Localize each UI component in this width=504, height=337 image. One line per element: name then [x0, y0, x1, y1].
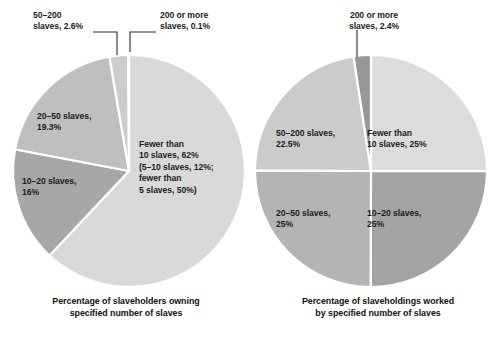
- leader-line-50-200: [93, 32, 117, 55]
- pie-slice: [255, 56, 371, 171]
- label-fewer-than-10-slaves: Fewer than 10 slaves, 62% (5–10 slaves, …: [139, 139, 239, 196]
- label-10-20-slaves: 10–20 slaves, 16%: [22, 176, 110, 199]
- pie-slice: [371, 55, 487, 171]
- pie-slice: [128, 55, 129, 171]
- leader-line-200-more: [130, 32, 156, 52]
- label-50-200-slaves: 50–200 slaves, 22.5%: [276, 128, 368, 151]
- label-50-200-slaves: 50–200 slaves, 2.6%: [33, 10, 107, 33]
- label-20-50-slaves: 20–50 slaves, 25%: [276, 208, 368, 231]
- right-pie-chart-panel: 200 or more slaves, 2.4% 50–200 slaves, …: [252, 0, 504, 337]
- label-200-or-more-slaves: 200 or more slaves, 2.4%: [328, 10, 420, 33]
- label-10-20-slaves: 10–20 slaves, 25%: [367, 208, 459, 231]
- right-chart-caption: Percentage of slaveholdings worked by sp…: [252, 296, 504, 319]
- left-pie-chart-panel: 50–200 slaves, 2.6% 200 or more slaves, …: [0, 0, 252, 337]
- label-200-or-more-slaves: 200 or more slaves, 0.1%: [160, 10, 245, 33]
- label-fewer-than-10-slaves: Fewer than 10 slaves, 25%: [367, 128, 459, 151]
- label-20-50-slaves: 20–50 slaves, 19.3%: [37, 111, 127, 134]
- left-chart-caption: Percentage of slaveholders owning specif…: [0, 296, 252, 319]
